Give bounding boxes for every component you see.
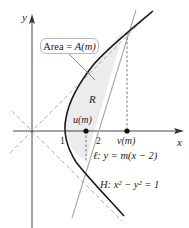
u-m-label: u(m) — [73, 115, 92, 125]
v-m-label: v(m) — [117, 136, 135, 146]
area-callout: Area = A(m) — [40, 38, 99, 54]
tick-label-2: 2 — [96, 137, 101, 147]
line-equation-label: ℓ: y = m(x − 2) — [93, 151, 157, 162]
hyperbola-equation-label: H: x² − y² = 1 — [100, 180, 159, 191]
callout-prefix: Area = — [43, 41, 72, 52]
x-axis-label: x — [177, 137, 182, 148]
region-label: R — [89, 94, 96, 105]
point-u — [83, 128, 88, 133]
tick-label-1: 1 — [60, 137, 65, 147]
point-v — [124, 128, 129, 133]
callout-value: A(m) — [75, 41, 96, 52]
hyperbola-diagram — [0, 0, 189, 228]
y-axis-label: y — [22, 12, 27, 23]
